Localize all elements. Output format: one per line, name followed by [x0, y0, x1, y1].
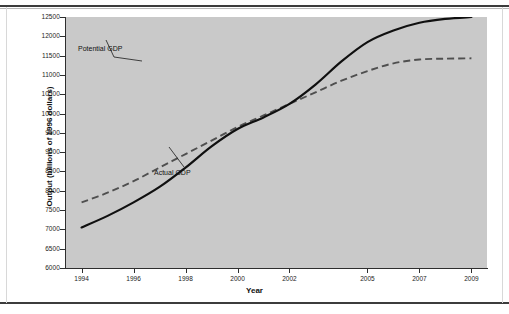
series-line-potential-gdp [82, 58, 472, 202]
x-axis-tick-label: 2002 [269, 275, 309, 282]
y-axis-tick [60, 210, 65, 211]
y-axis-tick [60, 171, 65, 172]
x-axis-tick [82, 269, 83, 273]
y-axis-tick [60, 94, 65, 95]
x-axis-tick [134, 269, 135, 273]
figure-right-edge [502, 7, 503, 303]
figure-bottom-rule [0, 302, 509, 304]
annotation-potential-gdp: Potential GDP [78, 45, 122, 52]
y-axis-tick [60, 268, 65, 269]
x-axis-tick-label: 2000 [218, 275, 258, 282]
y-axis-title: Output (billions of 1996 dollars) [45, 37, 54, 257]
x-axis-tick [419, 269, 420, 273]
x-axis-tick [289, 269, 290, 273]
y-axis-tick-label: 12500 [4, 13, 60, 20]
y-axis-tick [60, 191, 65, 192]
annotation-actual-gdp: Actual GDP [154, 169, 191, 176]
x-axis-tick [238, 269, 239, 273]
y-axis-tick [60, 133, 65, 134]
series-line-actual-gdp [82, 17, 472, 227]
x-axis-tick-label: 2009 [451, 275, 491, 282]
x-axis-tick-label: 1996 [114, 275, 154, 282]
y-axis-tick-label: 6000 [4, 264, 60, 271]
figure-top-rule-secondary [0, 8, 509, 9]
y-axis-line [65, 17, 66, 269]
x-axis-tick [367, 269, 368, 273]
y-axis-tick [60, 152, 65, 153]
x-axis-line [65, 268, 488, 269]
y-axis-tick [60, 229, 65, 230]
chart-figure: Potential GDP Actual GDP 125001200011500… [0, 0, 509, 314]
y-axis-tick [60, 114, 65, 115]
series-canvas [66, 17, 487, 268]
y-axis-tick [60, 249, 65, 250]
x-axis-tick [186, 269, 187, 273]
x-axis-tick-label: 1994 [62, 275, 102, 282]
x-axis-tick-label: 2005 [347, 275, 387, 282]
plot-area: Potential GDP Actual GDP [66, 17, 487, 268]
y-axis-tick [60, 36, 65, 37]
y-axis-tick [60, 75, 65, 76]
figure-top-rule [0, 5, 509, 7]
y-axis-tick [60, 56, 65, 57]
x-axis-tick [471, 269, 472, 273]
x-axis-tick-label: 2007 [399, 275, 439, 282]
y-axis-tick [60, 17, 65, 18]
x-axis-tick-label: 1998 [166, 275, 206, 282]
x-axis-title: Year [0, 286, 509, 295]
